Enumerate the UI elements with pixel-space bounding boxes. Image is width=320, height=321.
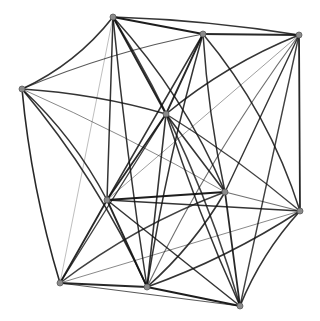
- node-C: [296, 32, 302, 38]
- edge-E-H: [166, 114, 300, 211]
- edge-A-D: [22, 17, 113, 89]
- node-G: [222, 189, 228, 195]
- edge-B-F: [107, 34, 203, 200]
- node-I: [57, 280, 63, 286]
- node-A: [110, 14, 116, 20]
- edge-B-H: [203, 34, 300, 211]
- edge-C-G: [225, 35, 299, 192]
- edge-D-J: [22, 89, 147, 287]
- node-J: [144, 284, 150, 290]
- node-D: [19, 86, 25, 92]
- edge-H-J: [147, 211, 300, 287]
- node-K: [237, 303, 243, 309]
- node-H: [297, 208, 303, 214]
- graph-diagram: [0, 0, 320, 321]
- edge-F-K: [107, 200, 240, 306]
- edge-C-E: [166, 35, 299, 114]
- edge-D-I: [22, 89, 60, 283]
- edge-H-K: [240, 211, 300, 306]
- node-E: [163, 111, 169, 117]
- edge-B-J: [147, 34, 203, 287]
- node-F: [104, 197, 110, 203]
- edges-layer: [22, 17, 300, 306]
- edge-E-G: [166, 114, 225, 192]
- node-B: [200, 31, 206, 37]
- edge-C-H: [299, 35, 300, 211]
- edge-A-C: [113, 17, 299, 35]
- edge-B-C: [203, 34, 299, 35]
